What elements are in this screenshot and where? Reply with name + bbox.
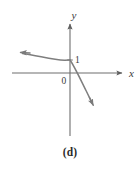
y-axis-label: y xyxy=(71,9,77,21)
curve-left-arrowhead xyxy=(21,52,31,53)
figure-caption: (d) xyxy=(0,146,140,158)
y-intercept-label: 1 xyxy=(75,55,80,65)
curve-right-arrowhead xyxy=(90,98,94,106)
origin-label: 0 xyxy=(62,76,67,86)
x-axis-label: x xyxy=(128,67,134,79)
figure-container: y x 1 0 (d) xyxy=(0,0,140,169)
graph-plot-area: y x 1 0 xyxy=(0,0,140,150)
function-curve xyxy=(23,54,93,104)
